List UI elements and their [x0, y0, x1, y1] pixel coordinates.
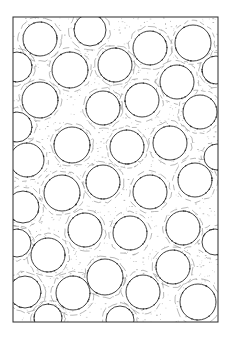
- cell-circle: [183, 95, 217, 129]
- cell-circle: [126, 275, 160, 309]
- cell-circle: [180, 284, 216, 320]
- cells-group: [1, 13, 230, 334]
- cell-circle: [2, 112, 32, 142]
- cell-circle: [9, 276, 41, 308]
- cell-circle: [87, 259, 123, 295]
- cell-circle: [56, 276, 90, 310]
- cell-circle: [52, 52, 88, 88]
- cell-circle: [175, 25, 211, 61]
- figure-canvas: [0, 0, 232, 338]
- cell-circle: [31, 238, 65, 272]
- cell-circle: [22, 82, 58, 118]
- cell-circle: [113, 216, 147, 250]
- cell-circle: [2, 52, 32, 82]
- cell-circle: [7, 191, 39, 223]
- cell-circle: [110, 130, 144, 164]
- cell-packing-figure: [0, 0, 232, 338]
- cell-circle: [133, 175, 167, 209]
- cell-circle: [204, 144, 230, 170]
- cell-circle: [178, 163, 212, 197]
- cell-circle: [34, 304, 62, 332]
- cell-circle: [3, 229, 31, 257]
- cell-circle: [166, 211, 200, 245]
- cell-circle: [10, 143, 44, 177]
- cell-circle: [54, 127, 90, 163]
